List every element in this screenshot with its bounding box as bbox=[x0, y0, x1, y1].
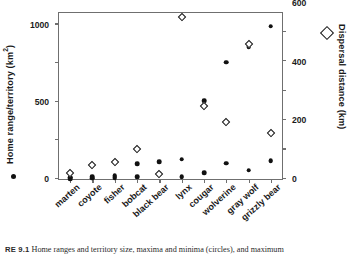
data-point-circle bbox=[269, 159, 274, 164]
data-point-diamond bbox=[222, 117, 231, 126]
y-axis-left-tick: 0 bbox=[55, 178, 59, 179]
y-axis-right-tick-label: 400 bbox=[292, 57, 306, 67]
data-point-circle bbox=[112, 176, 117, 181]
y-axis-right-tick: 600 bbox=[282, 90, 286, 91]
plot-area: 050010001500200002004006008001000 bbox=[58, 12, 283, 180]
x-axis-labels: martencoyotefisherbobcatblack bearlynxco… bbox=[58, 182, 283, 230]
y-axis-right-title: Dispersal distance (km) bbox=[337, 24, 347, 176]
y-axis-left-tick: 1000 bbox=[55, 101, 59, 102]
data-point-diamond bbox=[200, 102, 209, 111]
figure-caption: RE 9.1 Home ranges and territory size, m… bbox=[0, 245, 348, 255]
x-axis-category-label: marten bbox=[53, 182, 82, 210]
data-point-circle bbox=[90, 176, 95, 181]
data-point-diamond bbox=[88, 161, 97, 170]
y-axis-left-title: Home range/territory (km2) bbox=[2, 14, 15, 164]
y-axis-left-tick: 2000 bbox=[55, 23, 59, 24]
y-axis-right-tick: 400 bbox=[282, 119, 286, 120]
y-axis-right-tick: 0 bbox=[282, 178, 286, 179]
data-point-diamond bbox=[266, 129, 275, 138]
data-point-diamond bbox=[155, 169, 164, 178]
data-point-circle bbox=[269, 24, 274, 29]
y-axis-right-tick: 200 bbox=[282, 148, 286, 149]
y-axis-right-tick-label: 600 bbox=[292, 0, 306, 8]
data-point-circle bbox=[135, 161, 140, 166]
legend-circle-icon bbox=[11, 174, 16, 179]
data-point-diamond bbox=[110, 158, 119, 167]
y-axis-right-tick: 800 bbox=[282, 60, 286, 61]
y-axis-left-tick-label: 0 bbox=[44, 174, 49, 184]
y-axis-left-tick-label: 1000 bbox=[30, 20, 49, 30]
superscript-two: 2 bbox=[2, 48, 9, 52]
data-point-circle bbox=[202, 171, 207, 176]
data-point-circle bbox=[224, 161, 229, 166]
legend-diamond-icon bbox=[320, 26, 334, 40]
data-point-circle bbox=[135, 175, 140, 180]
data-point-circle bbox=[157, 159, 162, 164]
data-point-circle bbox=[246, 168, 251, 173]
figure-panel: Home range/territory (km2) Dispersal dis… bbox=[0, 0, 348, 255]
data-point-circle bbox=[179, 174, 184, 179]
data-point-circle bbox=[224, 60, 229, 65]
y-axis-left-tick: 1500 bbox=[55, 62, 59, 63]
y-axis-left-tick-label: 500 bbox=[35, 97, 49, 107]
data-point-diamond bbox=[133, 145, 142, 154]
y-axis-right-tick-label: 200 bbox=[292, 115, 306, 125]
caption-text: Home ranges and territory size, maxima a… bbox=[31, 245, 283, 254]
y-axis-right-tick: 1000 bbox=[282, 31, 286, 32]
data-point-circle bbox=[179, 157, 184, 162]
data-point-diamond bbox=[177, 13, 186, 22]
y-axis-right-tick-label: 0 bbox=[292, 174, 297, 184]
y-axis-left-tick: 500 bbox=[55, 139, 59, 140]
x-axis-category-label: coyote bbox=[76, 182, 104, 209]
caption-label: RE 9.1 bbox=[5, 245, 29, 254]
